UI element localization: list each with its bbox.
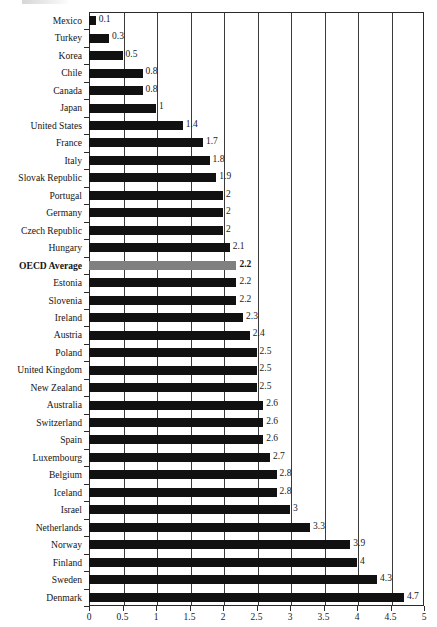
- bar-row: 2.6: [89, 414, 424, 431]
- bar-value-label: 1.8: [213, 153, 225, 166]
- y-axis-label: Turkey: [0, 29, 83, 46]
- bar: [89, 138, 203, 147]
- bar-highlight: [89, 261, 236, 270]
- bar-row: 1.7: [89, 134, 424, 151]
- bar-value-label: 2.3: [246, 310, 258, 323]
- bar: [89, 348, 257, 357]
- bar-row: 2.2: [89, 292, 424, 309]
- y-axis-label: Canada: [0, 82, 83, 99]
- bar-value-label: 0.5: [126, 48, 138, 61]
- bar-value-label: 2.5: [260, 345, 272, 358]
- bar: [89, 383, 257, 392]
- bar-row: 2.7: [89, 449, 424, 466]
- bar-value-label: 2: [226, 205, 231, 218]
- bar-value-label: 0.8: [146, 65, 158, 78]
- y-axis-label: Estonia: [0, 274, 83, 291]
- bar: [89, 156, 210, 165]
- x-axis-tick-label: 3: [288, 610, 293, 624]
- bar-value-label: 2: [226, 223, 231, 236]
- bar-value-label: 2.8: [280, 467, 292, 480]
- bar-row: 2.5: [89, 344, 424, 361]
- y-axis-label: Poland: [0, 344, 83, 361]
- y-axis-label: Korea: [0, 47, 83, 64]
- bar-value-label: 2.2: [239, 258, 251, 271]
- bar: [89, 104, 156, 113]
- y-axis-label: Belgium: [0, 466, 83, 483]
- bar-value-label: 0.8: [146, 83, 158, 96]
- x-axis-tick-label: 0.5: [117, 610, 129, 624]
- y-axis-category-labels: MexicoTurkeyKoreaChileCanadaJapanUnited …: [0, 12, 83, 606]
- bar-row: 2.8: [89, 484, 424, 501]
- y-axis-label: Chile: [0, 64, 83, 81]
- x-axis-tick-label: 4.5: [385, 610, 397, 624]
- bar-value-label: 3.3: [313, 520, 325, 533]
- y-axis-label: Luxembourg: [0, 449, 83, 466]
- bar: [89, 34, 109, 43]
- x-axis-tick-label: 2: [221, 610, 226, 624]
- y-axis-label: Czech Republic: [0, 222, 83, 239]
- bar-value-label: 2.2: [239, 293, 251, 306]
- bar-row: 2: [89, 187, 424, 204]
- bar-row: 1: [89, 99, 424, 116]
- bar-row: 4.3: [89, 571, 424, 588]
- bar: [89, 173, 216, 182]
- y-axis-label: Italy: [0, 152, 83, 169]
- bar-row: 2: [89, 204, 424, 221]
- bar-row: 4.7: [89, 589, 424, 606]
- bar: [89, 418, 263, 427]
- bar: [89, 278, 236, 287]
- y-axis-label: Australia: [0, 396, 83, 413]
- bar-value-label: 1.7: [206, 135, 218, 148]
- bar: [89, 16, 96, 25]
- y-axis-label: Mexico: [0, 12, 83, 29]
- bar: [89, 558, 357, 567]
- bar: [89, 488, 277, 497]
- bar: [89, 366, 257, 375]
- bar: [89, 208, 223, 217]
- y-axis-label: Austria: [0, 326, 83, 343]
- y-axis-label: Israel: [0, 501, 83, 518]
- y-axis-label: Switzerland: [0, 414, 83, 431]
- bar-value-label: 2.4: [253, 327, 265, 340]
- bar-value-label: 3: [293, 502, 298, 515]
- x-axis-tick-label: 0: [87, 610, 92, 624]
- bar: [89, 121, 183, 130]
- bar-value-label: 0.3: [112, 30, 124, 43]
- bar-value-label: 2.7: [273, 450, 285, 463]
- horizontal-bar-chart: MexicoTurkeyKoreaChileCanadaJapanUnited …: [0, 0, 437, 627]
- bar-value-label: 4.3: [380, 572, 392, 585]
- y-axis-label: Slovak Republic: [0, 169, 83, 186]
- bar: [89, 470, 277, 479]
- y-axis-label: OECD Average: [0, 257, 83, 274]
- bar: [89, 523, 310, 532]
- bar: [89, 575, 377, 584]
- x-axis-tick-label: 5: [422, 610, 427, 624]
- bar-row: 2.2: [89, 274, 424, 291]
- bar: [89, 243, 230, 252]
- bar-row: 1.4: [89, 117, 424, 134]
- bar: [89, 435, 263, 444]
- bar-row: 0.3: [89, 29, 424, 46]
- bar-value-label: 1.4: [186, 118, 198, 131]
- y-axis-label: France: [0, 134, 83, 151]
- bar-row: 0.1: [89, 12, 424, 29]
- bar-row: 3.3: [89, 519, 424, 536]
- bar-value-label: 0.1: [99, 13, 111, 26]
- scan-artifact: [22, 0, 68, 4]
- bar: [89, 296, 236, 305]
- x-axis-tick-label: 4: [355, 610, 360, 624]
- bar-value-label: 2.8: [280, 485, 292, 498]
- y-axis-label: Iceland: [0, 484, 83, 501]
- bar: [89, 313, 243, 322]
- bar-value-label: 3.9: [353, 537, 365, 550]
- bar-row: 4: [89, 554, 424, 571]
- bar-row: 0.8: [89, 64, 424, 81]
- bar: [89, 69, 143, 78]
- y-axis-label: New Zealand: [0, 379, 83, 396]
- bar: [89, 453, 270, 462]
- bar-value-label: 2.6: [266, 415, 278, 428]
- y-axis-label: Denmark: [0, 589, 83, 606]
- bar-row: 3.9: [89, 536, 424, 553]
- bar-row: 2.8: [89, 466, 424, 483]
- bar-row: 0.8: [89, 82, 424, 99]
